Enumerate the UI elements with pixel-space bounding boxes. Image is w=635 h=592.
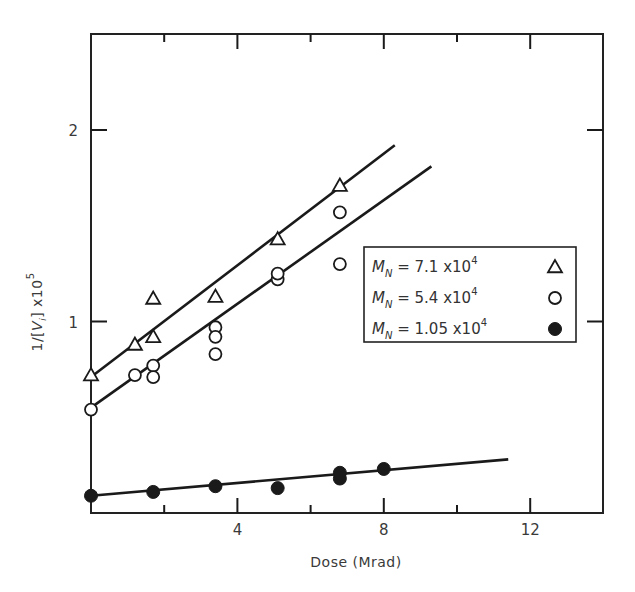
x-axis-tick-labels: 4812 (233, 521, 540, 539)
triangle-marker (146, 330, 160, 342)
open-circle-marker (129, 369, 141, 381)
y-tick-label: 1 (68, 314, 78, 332)
filled-circle-marker (85, 489, 98, 502)
open-circle-marker (147, 371, 159, 383)
open-circle-marker (85, 404, 97, 416)
x-tick-label: 8 (379, 521, 389, 539)
y-axis-tick-labels: 12 (68, 122, 78, 332)
y-tick-label: 2 (68, 122, 78, 140)
triangle-marker (208, 290, 222, 302)
y-axis-label: 1/[Vi] x105 (25, 272, 48, 351)
filled-circle-marker (147, 485, 160, 498)
x-tick-label: 4 (233, 521, 243, 539)
x-tick-label: 12 (521, 521, 540, 539)
chart: 4812 12 Dose (Mrad) 1/[Vi] x105 MN = 7.1… (0, 0, 635, 592)
legend-marker-icon (549, 292, 561, 304)
open-circle-marker (334, 258, 346, 270)
legend-marker-icon (549, 323, 562, 336)
open-circle-marker (209, 331, 221, 343)
x-axis-label: Dose (Mrad) (310, 554, 401, 570)
open-circle-marker (334, 206, 346, 218)
open-circle-marker (147, 360, 159, 372)
filled-circle-marker (377, 462, 390, 475)
open-circle-marker (209, 348, 221, 360)
filled-circle-marker (271, 482, 284, 495)
filled-circle-marker (209, 480, 222, 493)
legend: MN = 7.1 x104MN = 5.4 x104MN = 1.05 x104 (364, 247, 576, 342)
open-circle-marker (272, 268, 284, 280)
triangle-marker (146, 292, 160, 304)
svg-text:1/[Vi] x105: 1/[Vi] x105 (25, 272, 48, 351)
filled-circle-marker (333, 466, 346, 479)
